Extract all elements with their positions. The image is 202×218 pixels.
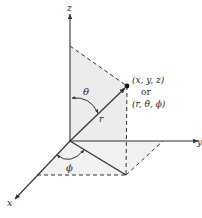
z-axis-label: z xyxy=(66,3,72,13)
phi-label: ϕ xyxy=(66,162,73,173)
spherical-label: (r, θ, ϕ) xyxy=(132,99,166,109)
y-axis-label: y xyxy=(196,137,202,147)
diagram-svg: z y x (x, y, z) or (r, θ, ϕ) θ r ϕ xyxy=(0,0,202,218)
r-label: r xyxy=(99,114,104,124)
or-label: or xyxy=(141,87,151,97)
theta-label: θ xyxy=(83,86,89,97)
point-marker xyxy=(125,84,130,89)
spherical-coordinates-diagram: z y x (x, y, z) or (r, θ, ϕ) θ r ϕ xyxy=(0,0,202,218)
cartesian-label: (x, y, z) xyxy=(132,75,165,85)
x-axis-label: x xyxy=(7,198,12,208)
